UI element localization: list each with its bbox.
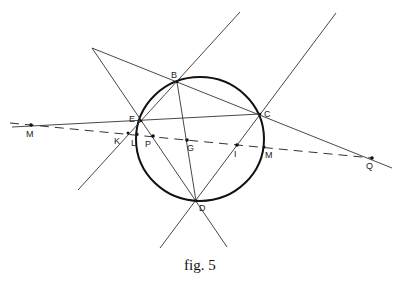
point-d — [195, 200, 198, 203]
point-g — [185, 138, 189, 142]
label-i: I — [234, 149, 237, 159]
point-q — [370, 156, 374, 160]
geometry-figure: B C E D M K L P G I M Q fig. 5 — [0, 0, 404, 281]
label-k: K — [114, 136, 120, 146]
point-m-left — [29, 123, 33, 127]
line-m-e-c — [12, 114, 260, 127]
label-d: D — [199, 203, 206, 213]
point-e — [140, 120, 143, 123]
point-b — [176, 81, 179, 84]
label-l: L — [131, 138, 136, 148]
figure-caption: fig. 5 — [184, 257, 216, 273]
point-l — [136, 133, 139, 136]
label-g: G — [187, 143, 194, 153]
label-b: B — [171, 70, 177, 80]
label-p: P — [145, 139, 151, 149]
point-c — [259, 113, 262, 116]
label-c: C — [264, 109, 271, 119]
point-k — [127, 132, 130, 135]
label-q: Q — [366, 161, 373, 171]
point-p — [151, 134, 155, 138]
line-through-c-d — [160, 13, 336, 248]
point-i — [235, 143, 239, 147]
circle — [136, 77, 264, 201]
label-m-right: M — [265, 150, 273, 160]
point-m-right — [263, 146, 266, 149]
label-e: E — [129, 114, 135, 124]
label-m-left: M — [26, 129, 34, 139]
line-through-e-b — [78, 12, 240, 190]
